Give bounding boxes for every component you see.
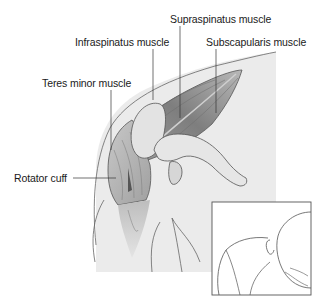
inset-orientation-view — [212, 202, 311, 295]
label-supraspinatus-muscle: Supraspinatus muscle — [170, 13, 271, 25]
label-subscapularis-muscle: Subscapularis muscle — [206, 36, 306, 48]
label-rotator-cuff: Rotator cuff — [14, 172, 67, 184]
label-infraspinatus-muscle: Infraspinatus muscle — [75, 36, 169, 48]
anatomy-diagram: Supraspinatus muscle Infraspinatus muscl… — [0, 0, 323, 302]
label-teres-minor-muscle: Teres minor muscle — [42, 77, 131, 89]
